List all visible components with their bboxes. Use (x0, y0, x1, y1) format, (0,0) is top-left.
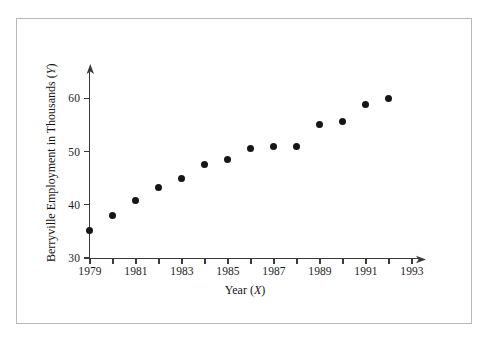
y-tick-mark (84, 204, 90, 205)
data-point (316, 121, 323, 128)
scatter-plot: 60 50 40 30 1979 1981 1983 1985 1987 198… (0, 0, 490, 345)
x-tick-mark (365, 258, 366, 264)
x-tick-mark (204, 258, 205, 264)
x-axis-title: Year (X) (0, 283, 490, 298)
x-tick-label: 1989 (308, 265, 331, 277)
x-tick-label: 1981 (124, 265, 147, 277)
y-axis-arrow-icon (85, 64, 96, 76)
y-axis-title-prefix: Berryville Employment in Thousands ( (44, 74, 58, 262)
y-axis-title-suffix: ) (44, 64, 58, 68)
x-tick-mark (227, 258, 228, 264)
x-axis-line (89, 258, 418, 259)
x-tick-label: 1979 (78, 265, 101, 277)
data-point (385, 95, 392, 102)
x-tick-label: 1991 (354, 265, 377, 277)
x-tick-label: 1987 (262, 265, 285, 277)
data-point (109, 212, 116, 219)
x-tick-mark (250, 258, 251, 264)
data-point (201, 161, 208, 168)
x-tick-mark (296, 258, 297, 264)
y-tick-label: 60 (58, 92, 80, 104)
x-tick-label: 1985 (216, 265, 239, 277)
data-point (224, 156, 231, 163)
x-tick-mark (158, 258, 159, 264)
x-tick-mark (181, 258, 182, 264)
y-axis-title-variable: Y (44, 68, 58, 75)
y-tick-label: 50 (58, 146, 80, 158)
data-point (293, 143, 300, 150)
y-axis-title: Berryville Employment in Thousands (Y) (44, 64, 59, 262)
data-point (178, 175, 185, 182)
x-tick-mark (319, 258, 320, 264)
data-point (362, 101, 369, 108)
data-point (270, 143, 277, 150)
x-tick-mark (411, 258, 412, 264)
data-point (155, 184, 162, 191)
x-tick-mark (273, 258, 274, 264)
data-point (339, 118, 346, 125)
data-point (132, 197, 139, 204)
x-tick-mark (135, 258, 136, 264)
data-point (247, 145, 254, 152)
data-point (86, 227, 93, 234)
x-tick-mark (342, 258, 343, 264)
x-tick-label: 1993 (400, 265, 423, 277)
x-axis-arrow-icon (414, 254, 426, 265)
y-tick-mark (84, 151, 90, 152)
x-axis-title-prefix: Year ( (225, 283, 254, 297)
x-axis-title-suffix: ) (261, 283, 265, 297)
x-tick-mark (89, 258, 90, 264)
y-tick-mark (84, 98, 90, 99)
x-tick-mark (112, 258, 113, 264)
x-tick-label: 1983 (170, 265, 193, 277)
y-tick-label: 40 (58, 199, 80, 211)
y-tick-label: 30 (58, 252, 80, 264)
x-tick-mark (388, 258, 389, 264)
